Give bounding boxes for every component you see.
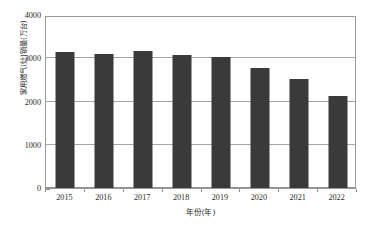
- x-tick-label-2022: 2022: [328, 193, 344, 202]
- y-tick-label-4000: 4000: [25, 12, 41, 20]
- bar-slot: [240, 17, 279, 188]
- bar-chart: 家用燃气(灶)销量(万台) 01000200030004000 20152016…: [0, 0, 369, 230]
- x-tick-label-2017: 2017: [134, 193, 150, 202]
- bar-2019: [211, 57, 230, 188]
- plot-area: [45, 16, 356, 189]
- bar-slot: [318, 17, 357, 188]
- bar-2022: [328, 96, 347, 188]
- x-tick-mark: [45, 189, 46, 192]
- bar-2015: [56, 52, 75, 188]
- bar-slot: [279, 17, 318, 188]
- bar-slot: [46, 17, 85, 188]
- bar-2017: [134, 51, 153, 188]
- bars-layer: [46, 17, 355, 188]
- x-tick-label-2015: 2015: [56, 193, 72, 202]
- bar-slot: [163, 17, 202, 188]
- bar-slot: [202, 17, 241, 188]
- x-axis-tick-labels: 20152016201720182019202020212022: [45, 193, 356, 207]
- x-tick-label-2019: 2019: [212, 193, 228, 202]
- x-tick-mark: [278, 189, 279, 192]
- x-tick-mark: [162, 189, 163, 192]
- x-tick-mark: [84, 189, 85, 192]
- bar-slot: [85, 17, 124, 188]
- y-axis-tick-labels: 01000200030004000: [0, 0, 44, 230]
- bar-2020: [250, 68, 269, 188]
- y-tick-label-2000: 2000: [25, 99, 41, 107]
- bar-2021: [289, 79, 308, 188]
- x-tick-label-2020: 2020: [251, 193, 267, 202]
- x-tick-mark: [356, 189, 357, 192]
- x-axis-title: 年份(年): [45, 206, 356, 217]
- x-tick-label-2018: 2018: [173, 193, 189, 202]
- bar-slot: [124, 17, 163, 188]
- bar-2018: [173, 55, 192, 188]
- x-tick-label-2016: 2016: [95, 193, 111, 202]
- y-tick-label-1000: 1000: [25, 142, 41, 150]
- bar-2016: [95, 54, 114, 188]
- x-tick-mark: [123, 189, 124, 192]
- x-tick-mark: [201, 189, 202, 192]
- x-tick-mark: [317, 189, 318, 192]
- x-tick-label-2021: 2021: [290, 193, 306, 202]
- y-tick-label-0: 0: [37, 185, 41, 193]
- y-tick-label-3000: 3000: [25, 55, 41, 63]
- x-tick-mark: [239, 189, 240, 192]
